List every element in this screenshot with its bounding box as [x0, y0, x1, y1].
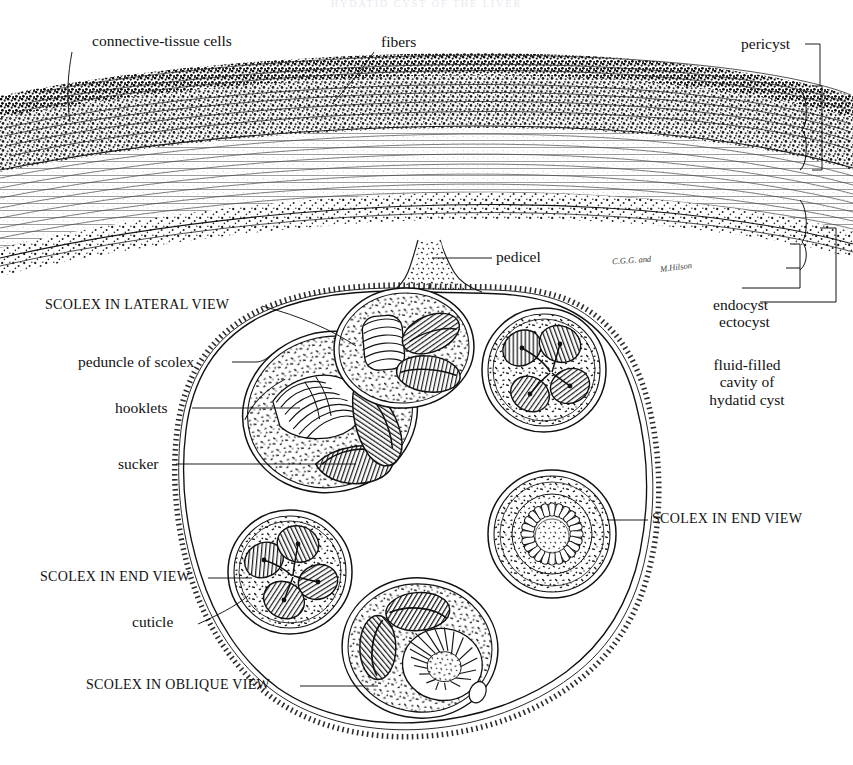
- label-endocyst: endocyst: [713, 296, 768, 313]
- plate-title: HYDATID CYST OF THE LIVER: [0, 0, 853, 9]
- label-hooklets: hooklets: [115, 399, 168, 416]
- label-peduncle-of-scolex: peduncle of scolex: [78, 353, 194, 370]
- label-scolex-oblique-view: SCOLEX IN OBLIQUE VIEW: [86, 677, 270, 693]
- anatomical-plate: HYDATID CYST OF THE LIVER: [0, 0, 853, 765]
- label-pedicel: pedicel: [496, 248, 541, 265]
- label-sucker: sucker: [118, 455, 158, 472]
- fluid-cavity-line-2: cavity of: [687, 373, 807, 390]
- label-scolex-end-view-right: SCOLEX IN END VIEW: [652, 511, 802, 527]
- brood-capsule-right-end: [488, 470, 616, 598]
- label-scolex-end-view-left: SCOLEX IN END VIEW: [40, 569, 190, 585]
- rostellum: [361, 314, 406, 371]
- fluid-cavity-line-1: fluid-filled: [687, 356, 807, 373]
- label-scolex-lateral-view: SCOLEX IN LATERAL VIEW: [45, 297, 229, 313]
- label-ectocyst: ectocyst: [719, 313, 770, 330]
- label-connective-tissue-cells: connective-tissue cells: [92, 32, 232, 49]
- brood-capsule-oblique: [335, 570, 505, 726]
- fluid-cavity-line-3: hydatid cyst: [687, 391, 807, 408]
- label-fluid-filled-cavity: fluid-filled cavity of hydatid cyst: [687, 356, 807, 408]
- label-fibers: fibers: [381, 33, 416, 50]
- label-cuticle: cuticle: [132, 613, 173, 630]
- brood-capsule-lower-left: [228, 510, 352, 634]
- brood-capsule-upper-right: [482, 308, 606, 432]
- label-pericyst: pericyst: [741, 35, 790, 52]
